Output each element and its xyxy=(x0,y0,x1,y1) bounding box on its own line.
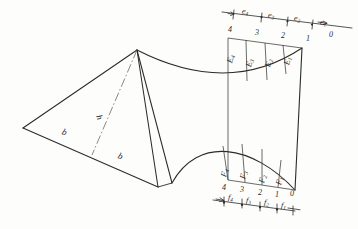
base-connector xyxy=(158,183,172,187)
top-segment-label-e4: e4 xyxy=(241,8,248,17)
bottom-station-number-1: 1 xyxy=(275,191,279,199)
bottom-segment-label-f2: f2 xyxy=(263,199,269,208)
top-segment-label-e1: e1 xyxy=(319,19,326,28)
bottom-arrow-right xyxy=(288,208,300,210)
bottom-station-number-3: 3 xyxy=(240,186,244,194)
bottom-dot-1 xyxy=(276,208,278,210)
bottom-station-number-2: 2 xyxy=(258,189,262,197)
right-edge-group xyxy=(295,48,302,190)
bottom-scale-group xyxy=(213,197,300,215)
top-station-number-1: 1 xyxy=(306,35,310,43)
edge-lower-left xyxy=(23,128,158,187)
saddle-upper-curve-group xyxy=(137,48,302,73)
top-station-number-4: 4 xyxy=(228,26,232,34)
bottom-dot-2 xyxy=(259,206,261,208)
top-station-number-2: 2 xyxy=(281,32,285,40)
bottom-segment-label-f3: f3 xyxy=(245,197,251,206)
top-dot-1 xyxy=(311,23,313,25)
bottom-dot-3 xyxy=(241,204,243,206)
bottom-station-number-0: 0 xyxy=(290,190,294,198)
bottom-segment-label-f1: f1 xyxy=(280,202,286,211)
bottom-dot-4 xyxy=(223,201,225,203)
top-segment-label-e2: e2 xyxy=(293,15,300,24)
left-base-connector-group xyxy=(158,183,172,187)
top-station-number-0: 0 xyxy=(329,31,333,39)
top-station-number-3: 3 xyxy=(255,29,259,37)
top-segment-label-e3: e3 xyxy=(267,12,274,21)
top-dot-3 xyxy=(260,16,262,18)
upper-sag-curve xyxy=(137,48,302,73)
top-dot-2 xyxy=(286,20,288,22)
bottom-segment-label-f4: f4 xyxy=(227,194,233,203)
shell-diagram xyxy=(0,0,358,229)
right-vertical-edge xyxy=(295,48,302,190)
bottom-station-number-4: 4 xyxy=(222,184,226,192)
